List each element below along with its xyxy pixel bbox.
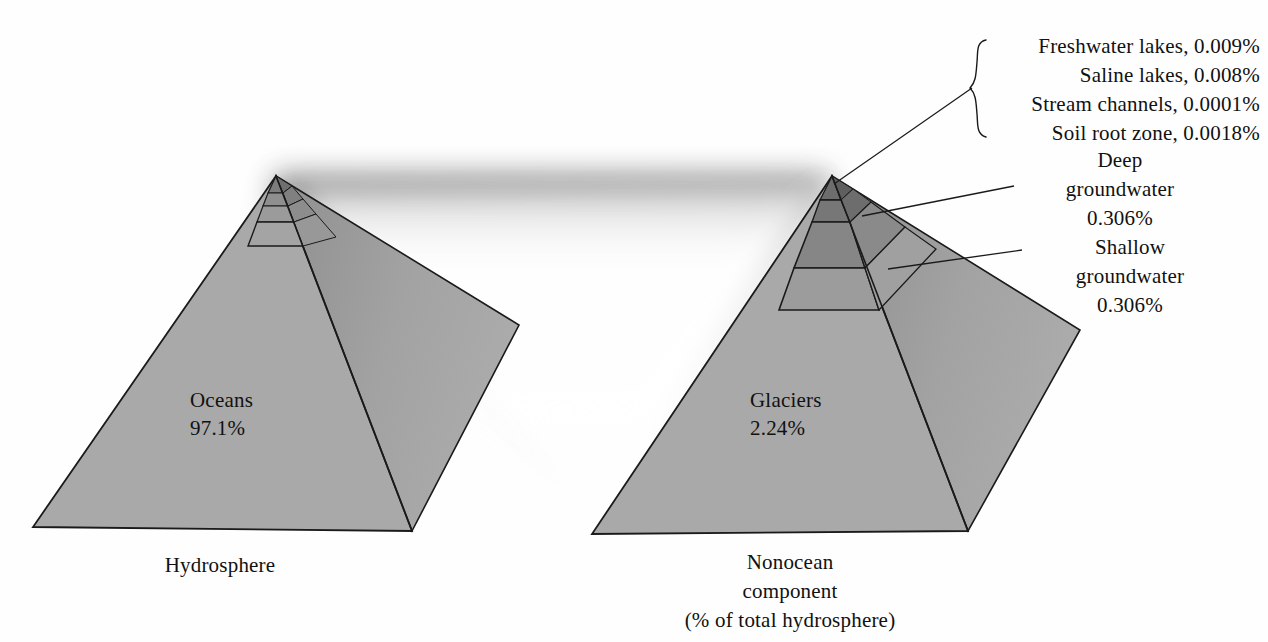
callout-shallow-groundwater: Shallow groundwater 0.306% [1040,233,1220,320]
right-pyramid-band-shallow-groundwater [779,268,879,310]
callout-bracket-list: Freshwater lakes, 0.009% Saline lakes, 0… [700,32,1260,148]
callout-soil-root-zone: Soil root zone, 0.0018% [700,119,1260,148]
figure-page: Freshwater lakes, 0.009% Saline lakes, 0… [0,0,1268,642]
deep-groundwater-leader-line [862,186,1014,216]
caption-hydrosphere-text: Hydrosphere [165,553,276,577]
callout-shallow-groundwater-line2: groundwater [1040,262,1220,291]
callout-saline-lakes: Saline lakes, 0.008% [700,61,1260,90]
label-glaciers: Glaciers 2.24% [750,386,822,442]
label-glaciers-name: Glaciers [750,386,822,414]
label-oceans-value: 97.1% [190,414,253,442]
callout-shallow-groundwater-value: 0.306% [1040,291,1220,320]
callout-deep-groundwater-value: 0.306% [1030,204,1210,233]
callout-deep-groundwater-line2: groundwater [1030,175,1210,204]
label-glaciers-value: 2.24% [750,414,822,442]
callout-deep-groundwater: Deep groundwater 0.306% [1030,146,1210,233]
caption-nonocean-line2: component [620,577,960,606]
label-oceans-name: Oceans [190,386,253,414]
callout-shallow-groundwater-line1: Shallow [1040,233,1220,262]
label-oceans: Oceans 97.1% [190,386,253,442]
caption-hydrosphere: Hydrosphere [60,551,380,580]
caption-nonocean: Nonocean component (% of total hydrosphe… [620,548,960,635]
callout-deep-groundwater-line1: Deep [1030,146,1210,175]
callout-freshwater-lakes: Freshwater lakes, 0.009% [700,32,1260,61]
caption-nonocean-line3: (% of total hydrosphere) [620,606,960,635]
caption-nonocean-line1: Nonocean [620,548,960,577]
callout-stream-channels: Stream channels, 0.0001% [700,90,1260,119]
